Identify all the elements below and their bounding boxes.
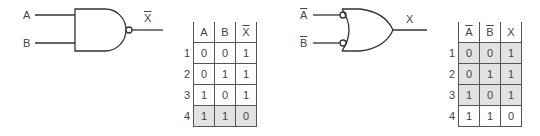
table-row-shaded: 3 1 0 1 xyxy=(445,85,522,106)
nand-input-a-label: A xyxy=(23,9,30,21)
negated-or-truth-table: A B X 1 0 0 1 2 0 1 1 3 1 0 1 4 1 1 0 xyxy=(445,22,522,127)
or-input-a-bar-label: A xyxy=(300,9,307,21)
header-b: B xyxy=(215,22,236,43)
table-row: 4 1 1 0 xyxy=(445,106,522,127)
table-row-shaded: 2 0 1 1 xyxy=(445,64,522,85)
header-b-bar: B xyxy=(480,22,501,43)
table-row: 2 0 1 1 xyxy=(180,64,257,85)
or-input-b-bar-label: B xyxy=(300,37,307,49)
nand-truth-table: A B X 1 0 0 1 2 0 1 1 3 1 0 1 4 1 1 0 xyxy=(180,22,257,127)
table-row-shaded: 1 0 0 1 xyxy=(445,43,522,64)
table-row: 3 1 0 1 xyxy=(180,85,257,106)
nand-input-b-label: B xyxy=(23,37,30,49)
header-x-bar: X xyxy=(236,22,257,43)
header-a: A xyxy=(194,22,215,43)
table-header-row: A B X xyxy=(180,22,257,43)
table-row-shaded: 4 1 1 0 xyxy=(180,106,257,127)
header-a-bar: A xyxy=(459,22,480,43)
table-header-row: A B X xyxy=(445,22,522,43)
table-row: 1 0 0 1 xyxy=(180,43,257,64)
or-output-label: X xyxy=(406,13,413,25)
header-x: X xyxy=(501,22,522,43)
nand-output-label: X xyxy=(144,12,151,24)
